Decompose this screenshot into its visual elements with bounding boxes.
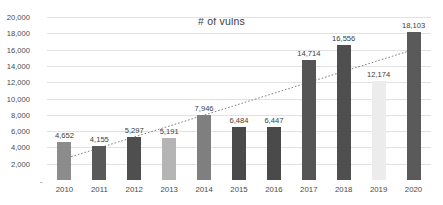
bar-value-label: 16,556 [332,34,355,43]
bar[interactable] [162,138,176,180]
bar[interactable] [372,81,386,180]
bar[interactable] [267,127,281,180]
y-axis-tick-label: 12,000 [0,78,30,87]
x-axis-tick-label: 2012 [126,185,143,194]
bar-value-label: 4,652 [55,131,74,140]
bar-column[interactable]: 16,5562018 [326,17,361,180]
x-axis-tick-label: 2020 [405,185,422,194]
y-axis-origin-label: - [40,177,43,186]
bar-value-label: 4,155 [90,135,109,144]
y-axis-tick-label: 10,000 [0,94,30,103]
x-axis-tick-label: 2010 [56,185,73,194]
x-axis-tick-label: 2018 [335,185,352,194]
bar[interactable] [57,142,71,180]
bar[interactable] [232,127,246,180]
plot-area: -2,0004,0006,0008,00010,00012,00014,0001… [47,17,431,180]
bar[interactable] [337,45,351,180]
y-axis-tick-label: 2,000 [0,159,30,168]
y-axis-tick-label: 20,000 [0,13,30,22]
bar-column[interactable]: 4,1552011 [82,17,117,180]
bar-value-label: 6,484 [229,116,248,125]
vulnerability-bar-chart: # of vulns - -2,0004,0006,0008,00010,000… [0,0,443,205]
bar[interactable] [92,146,106,180]
bar-column[interactable]: 6,4472016 [256,17,291,180]
y-axis-tick-label: 4,000 [0,143,30,152]
x-axis-tick-label: 2016 [265,185,282,194]
bar-column[interactable]: 6,4842015 [222,17,257,180]
bar-column[interactable]: 7,9462014 [187,17,222,180]
bar[interactable] [302,60,316,180]
bar-value-label: 5,191 [160,127,179,136]
bar[interactable] [197,115,211,180]
bar[interactable] [407,32,421,180]
bar-value-label: 12,174 [367,70,390,79]
bar[interactable] [127,137,141,180]
y-axis-tick-label: 16,000 [0,45,30,54]
x-axis-tick-label: 2013 [160,185,177,194]
x-axis-tick-label: 2011 [91,185,108,194]
bar-column[interactable]: 12,1742019 [361,17,396,180]
y-axis-tick-label: 14,000 [0,61,30,70]
bar-value-label: 5,297 [125,126,144,135]
bar-column[interactable]: 14,7142017 [291,17,326,180]
bar-column[interactable]: 5,2972012 [117,17,152,180]
bar-value-label: 7,946 [195,104,214,113]
y-axis-tick-label: 18,000 [0,29,30,38]
x-axis-tick-label: 2014 [195,185,212,194]
x-axis-tick-label: 2017 [300,185,317,194]
bar-value-label: 18,103 [402,21,425,30]
bar-value-label: 6,447 [264,116,283,125]
bar-column[interactable]: 4,6522010 [47,17,82,180]
x-axis-tick-label: 2019 [370,185,387,194]
bar-column[interactable]: 5,1912013 [152,17,187,180]
bar-column[interactable]: 18,1032020 [396,17,431,180]
y-axis-tick-label: 6,000 [0,127,30,136]
bar-value-label: 14,714 [297,49,320,58]
y-axis-tick-label: 8,000 [0,110,30,119]
x-axis-tick-label: 2015 [230,185,247,194]
